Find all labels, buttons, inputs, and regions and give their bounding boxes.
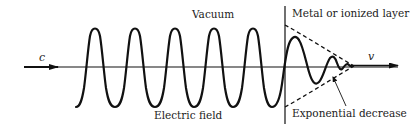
electric-field-wave-vacuum xyxy=(76,29,299,108)
exponential-decrease-label: Exponential decrease xyxy=(292,108,407,119)
exponential-envelope-upper xyxy=(285,25,354,66)
em-wave-penetration-diagram: c Vacuum Metal or ionized layer v Electr… xyxy=(0,0,414,132)
electric-field-wave-decaying xyxy=(299,40,352,84)
vacuum-label: Vacuum xyxy=(192,9,234,20)
penetrating-speed-label: v xyxy=(368,51,374,62)
exponential-decrease-pointer xyxy=(333,77,346,106)
propagation-axis xyxy=(24,66,398,68)
metal-layer-label: Metal or ionized layer xyxy=(292,8,409,19)
electric-field-label: Electric field xyxy=(154,110,222,121)
incoming-speed-label: c xyxy=(39,52,45,63)
